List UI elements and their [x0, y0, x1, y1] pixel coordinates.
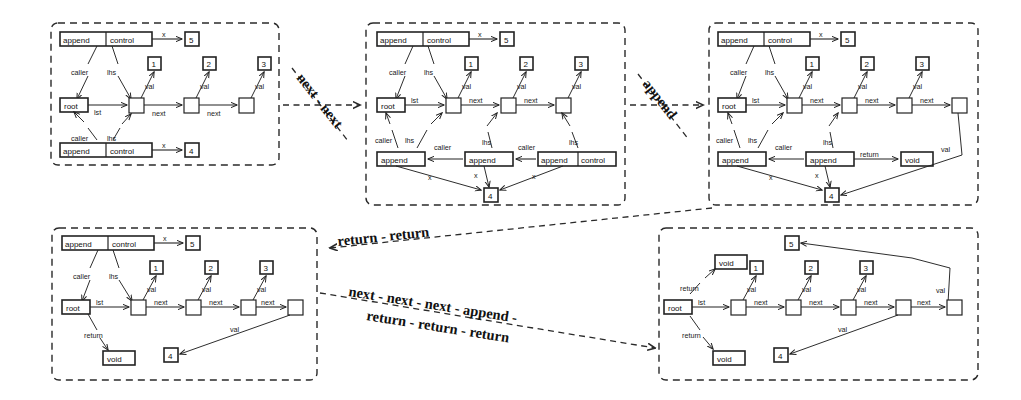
value-1: 1: [754, 264, 759, 273]
panel-2-root[interactable]: root: [377, 98, 405, 112]
label-next-2: next: [865, 96, 879, 105]
label-val-3: val: [255, 82, 265, 91]
panel-4-value-3[interactable]: 3: [260, 261, 273, 274]
list-node-3[interactable]: [241, 300, 256, 315]
panel-5-value-5[interactable]: 5: [785, 236, 799, 250]
panel-4-value-5[interactable]: 5: [186, 236, 200, 250]
panel-1-value-4[interactable]: 4: [185, 143, 199, 157]
label-lhs-right: lhs: [569, 138, 579, 147]
panel-2-frame-append-1[interactable]: append: [377, 152, 425, 166]
panel-3-root[interactable]: root: [718, 98, 746, 112]
frame-label-append-2: append: [63, 147, 90, 156]
list-node-4[interactable]: [952, 98, 967, 113]
value-1: 1: [469, 60, 474, 69]
list-node-3[interactable]: [556, 98, 571, 113]
panel-4-value-4[interactable]: 4: [164, 348, 178, 362]
label-caller-bot: caller: [716, 136, 734, 145]
list-node-1[interactable]: [787, 98, 802, 113]
label-val-1: val: [747, 285, 757, 294]
label-lhs-mid: lhs: [823, 138, 833, 147]
list-node-3[interactable]: [239, 98, 254, 113]
panel-5-void-top[interactable]: void: [715, 255, 747, 269]
panel-5-root[interactable]: root: [664, 300, 692, 314]
frame-label-append-c: append: [541, 156, 568, 165]
panel-4-frame-top[interactable]: append control: [62, 236, 154, 250]
label-caller-top: caller: [71, 68, 89, 77]
list-node-4[interactable]: [896, 300, 911, 315]
label-next-1: next: [754, 298, 768, 307]
list-node-2[interactable]: [184, 98, 199, 113]
panel-3-frame-top[interactable]: append control: [718, 32, 810, 46]
panel-5-value-3[interactable]: 3: [860, 261, 873, 274]
transition-label-1: next - next: [294, 70, 347, 131]
list-node-2[interactable]: [186, 300, 201, 315]
panel-2-value-4[interactable]: 4: [484, 188, 498, 202]
panel-5-value-2[interactable]: 2: [805, 261, 818, 274]
list-node-2[interactable]: [786, 300, 801, 315]
label-next-3: next: [920, 96, 934, 105]
label-lhs-bot: lhs: [405, 136, 415, 145]
panel-2-value-3[interactable]: 3: [575, 57, 588, 70]
panel-3-value-3[interactable]: 3: [916, 57, 929, 70]
panel-4: append control x 5 caller lhs root lst n…: [52, 228, 317, 380]
panel-1-value-1[interactable]: 1: [148, 57, 161, 70]
void-label-bot: void: [717, 355, 732, 364]
label-caller-1: caller: [775, 143, 793, 152]
panel-2-value-5[interactable]: 5: [500, 32, 514, 46]
frame-label-control: control: [110, 36, 134, 45]
list-node-3[interactable]: [897, 98, 912, 113]
panel-5-void-bottom[interactable]: void: [713, 351, 745, 365]
panel-3-value-2[interactable]: 2: [861, 57, 874, 70]
value-1: 1: [152, 60, 157, 69]
edge-label-x: x: [478, 30, 482, 39]
label-val-3: val: [913, 82, 923, 91]
list-node-2[interactable]: [842, 98, 857, 113]
panel-5-value-1[interactable]: 1: [750, 261, 763, 274]
panel-3-void[interactable]: void: [901, 152, 933, 166]
label-caller-2: caller: [518, 143, 536, 152]
panel-3-value-4[interactable]: 4: [825, 188, 839, 202]
label-caller-top: caller: [73, 272, 91, 281]
panel-2-value-1[interactable]: 1: [465, 57, 478, 70]
panel-5-value-4[interactable]: 4: [774, 348, 788, 362]
panel-1-frame-bottom[interactable]: append control: [60, 143, 152, 157]
list-node-1[interactable]: [731, 300, 746, 315]
label-lst: lst: [752, 96, 759, 105]
list-node-3[interactable]: [841, 300, 856, 315]
panel-3-frame-append-1[interactable]: append: [718, 152, 766, 166]
value-4: 4: [778, 352, 783, 361]
panel-3-border: [709, 23, 978, 205]
panel-2-frame-append-2[interactable]: append: [465, 152, 513, 166]
list-node-1[interactable]: [131, 300, 146, 315]
panel-2-frame-append-control[interactable]: append control: [538, 152, 616, 166]
panel-2-value-2[interactable]: 2: [520, 57, 533, 70]
panel-4-void[interactable]: void: [103, 351, 135, 365]
panel-1-value-3[interactable]: 3: [258, 57, 271, 70]
panel-4-value-1[interactable]: 1: [150, 261, 163, 274]
frame-label-append-a: append: [722, 156, 749, 165]
list-node-4[interactable]: [288, 300, 303, 315]
panel-4-root[interactable]: root: [62, 300, 90, 314]
list-node-1[interactable]: [129, 98, 144, 113]
panel-1-value-2[interactable]: 2: [203, 57, 216, 70]
panel-4-value-2[interactable]: 2: [205, 261, 218, 274]
root-label: root: [722, 102, 737, 111]
value-3: 3: [864, 264, 869, 273]
label-x-1: x: [769, 173, 773, 182]
value-4: 4: [168, 352, 173, 361]
panel-1-value-5[interactable]: 5: [185, 32, 199, 46]
label-lhs-top: lhs: [765, 68, 775, 77]
panel-3-value-1[interactable]: 1: [806, 57, 819, 70]
value-3: 3: [262, 60, 267, 69]
list-node-5[interactable]: [947, 300, 962, 315]
label-val-tail: val: [230, 325, 240, 334]
panel-1-frame-top[interactable]: append control: [60, 32, 152, 46]
list-node-2[interactable]: [501, 98, 516, 113]
panel-3-frame-append-2[interactable]: append: [806, 152, 854, 166]
panel-3-value-5[interactable]: 5: [841, 32, 855, 46]
panel-1-root[interactable]: root: [60, 98, 88, 112]
label-next-2: next: [524, 96, 538, 105]
label-caller-bot: caller: [375, 136, 393, 145]
panel-2-frame-top[interactable]: append control: [377, 32, 469, 46]
list-node-1[interactable]: [446, 98, 461, 113]
